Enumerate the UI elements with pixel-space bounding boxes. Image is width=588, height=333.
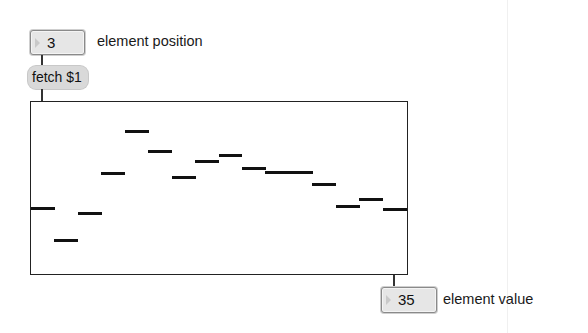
slider-bar[interactable] (172, 176, 196, 179)
slider-bar[interactable] (265, 171, 289, 174)
slider-bar[interactable] (289, 171, 313, 174)
slider-bar[interactable] (31, 207, 55, 210)
slider-bar[interactable] (219, 154, 243, 157)
fetch-message-box[interactable]: fetch $1 (28, 66, 88, 89)
position-number-value: 3 (47, 32, 55, 54)
number-box-triangle-icon (35, 38, 40, 48)
number-box-triangle-icon (386, 295, 391, 305)
slider-bar[interactable] (54, 239, 78, 242)
max-patcher-canvas: 3 element position fetch $1 35 element v… (0, 0, 588, 333)
element-value-comment: element value (443, 291, 533, 307)
value-number-box[interactable]: 35 (381, 287, 437, 313)
element-position-comment: element position (97, 33, 203, 49)
slider-bar[interactable] (125, 130, 149, 133)
slider-bar[interactable] (101, 172, 125, 175)
value-number-value: 35 (398, 289, 415, 311)
background-guide-line (507, 0, 508, 333)
slider-bar[interactable] (312, 183, 336, 186)
slider-bar[interactable] (336, 205, 360, 208)
position-number-box[interactable]: 3 (30, 30, 85, 55)
multislider[interactable] (30, 101, 408, 275)
patch-cord[interactable] (393, 275, 395, 287)
slider-bar[interactable] (359, 198, 383, 201)
slider-bar[interactable] (383, 208, 407, 211)
slider-bar[interactable] (148, 150, 172, 153)
slider-bar[interactable] (78, 212, 102, 215)
slider-bar[interactable] (195, 160, 219, 163)
patch-cord[interactable] (41, 55, 43, 66)
slider-bar[interactable] (242, 167, 266, 170)
